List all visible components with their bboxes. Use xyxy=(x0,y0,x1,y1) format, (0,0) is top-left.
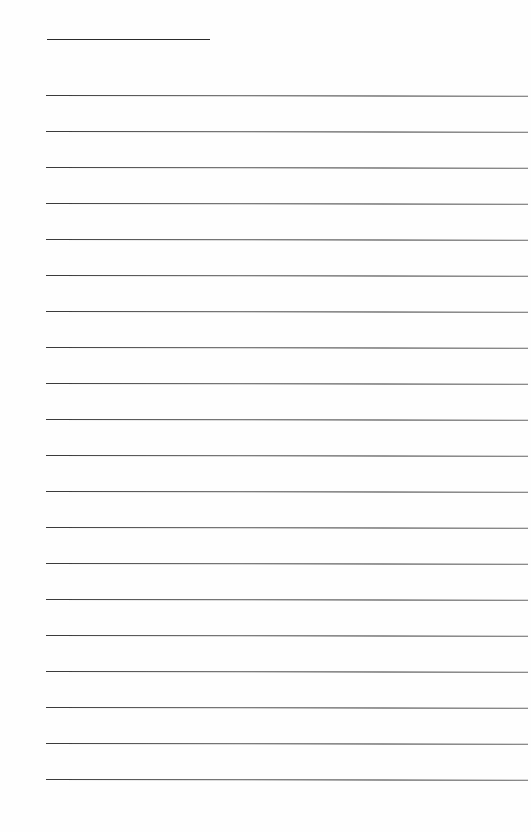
ruled-line xyxy=(46,635,528,637)
ruled-line xyxy=(46,743,528,745)
ruled-line xyxy=(46,347,528,349)
ruled-line xyxy=(46,779,528,781)
ruled-line xyxy=(46,455,528,457)
ruled-line xyxy=(46,671,528,673)
ruled-line xyxy=(46,311,528,313)
ruled-line xyxy=(46,95,528,97)
ruled-line xyxy=(46,527,528,529)
title-underline xyxy=(47,39,210,40)
ruled-line xyxy=(46,275,528,277)
ruled-line xyxy=(46,167,528,169)
ruled-line xyxy=(46,131,528,133)
ruled-line xyxy=(46,707,528,709)
ruled-line xyxy=(46,203,528,205)
ruled-line xyxy=(46,563,528,565)
ruled-line xyxy=(46,239,528,241)
ruled-line xyxy=(46,599,528,601)
ruled-line xyxy=(46,491,528,493)
lined-paper-page xyxy=(0,0,531,832)
ruled-line xyxy=(46,383,528,385)
ruled-line xyxy=(46,419,528,421)
